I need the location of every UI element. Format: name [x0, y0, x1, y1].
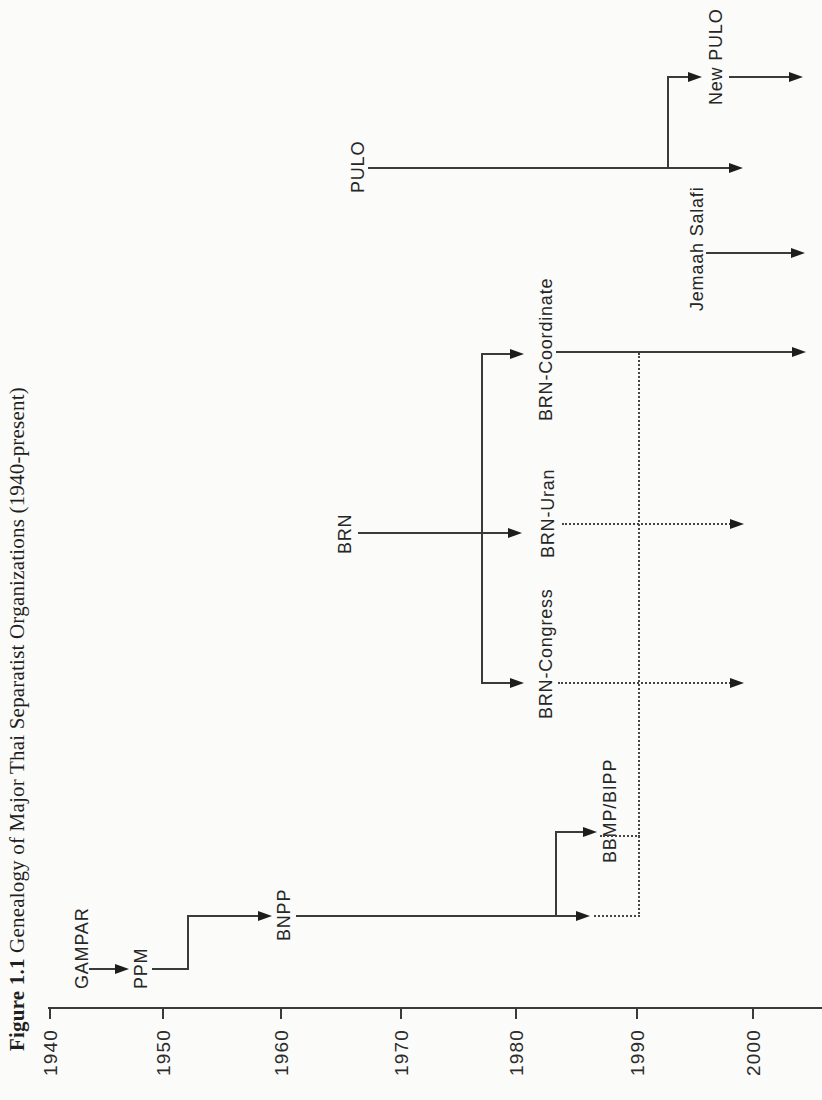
gampar-to-ppm-line: [89, 968, 116, 970]
label-brn: BRN: [336, 514, 354, 554]
pulo-lane-line: [368, 167, 730, 169]
figure-title: Figure 1.1 Genealogy of Major Thai Separ…: [7, 387, 28, 1051]
brn-to-coordinate-line: [481, 353, 511, 355]
brn-coordinate-arrowhead-icon: [792, 347, 806, 357]
figure-number: Figure 1.1: [5, 958, 29, 1051]
brn-uran-dotted-line: [562, 523, 731, 525]
brn-to-coordinate-arrowhead-icon: [510, 349, 524, 359]
brn-to-congress-line: [481, 682, 511, 684]
brn-to-uran-arrowhead-icon: [508, 528, 522, 538]
label-bbmp-bipp: BBMP/BIPP: [601, 759, 619, 863]
label-brn-uran: BRN-Uran: [539, 469, 557, 558]
tick-1970: [400, 1008, 402, 1019]
bnpp-lane-line: [296, 915, 578, 917]
ppm-line: [152, 968, 189, 970]
year-label-1970: 1970: [392, 1029, 411, 1076]
time-axis-line: [48, 1007, 822, 1009]
label-bnpp: BNPP: [275, 889, 293, 941]
jemaah-salafi-arrowhead-icon: [791, 248, 805, 258]
jemaah-salafi-lane-line: [706, 252, 792, 254]
label-brn-coordinate: BRN-Coordinate: [537, 278, 555, 421]
label-new-pulo: New PULO: [707, 9, 725, 105]
ppm-to-bnpp-arrowhead-icon: [258, 911, 272, 921]
scanned-figure-page: Figure 1.1 Genealogy of Major Thai Separ…: [0, 0, 822, 1100]
label-gampar: GAMPAR: [73, 908, 91, 989]
figure-caption: Genealogy of Major Thai Separatist Organ…: [5, 387, 29, 953]
ppm-to-bnpp-riser: [187, 915, 189, 970]
year-label-1960: 1960: [272, 1029, 291, 1076]
tick-1950: [162, 1008, 164, 1019]
year-label-1990: 1990: [628, 1029, 647, 1076]
pulo-end-arrowhead-icon: [729, 163, 743, 173]
gampar-to-ppm-arrowhead-icon: [115, 964, 129, 974]
label-brn-congress: BRN-Congress: [537, 588, 555, 719]
bnpp-to-bbmp-arrowhead-icon: [583, 827, 597, 837]
brn-congress-arrowhead-icon: [730, 678, 744, 688]
bnpp-to-bbmp-riser: [555, 831, 557, 917]
tick-1990: [636, 1008, 638, 1019]
bnpp-end-arrowhead-icon: [576, 911, 590, 921]
tick-1980: [515, 1008, 517, 1019]
label-ppm: PPM: [132, 948, 150, 989]
pulo-to-newpulo-arrowhead-icon: [688, 72, 702, 82]
tick-1960: [280, 1008, 282, 1019]
label-jemaah-salafi: Jemaah Salafi: [688, 187, 706, 311]
brn-uran-arrowhead-icon: [730, 519, 744, 529]
tick-2000: [752, 1008, 754, 1019]
ppm-to-bnpp-line: [187, 915, 258, 917]
brn-line: [358, 532, 509, 534]
newpulo-lane-line: [729, 76, 790, 78]
pulo-to-newpulo-line: [667, 76, 689, 78]
brn-fork-line: [481, 354, 483, 684]
brn-coordinate-lane-line: [556, 351, 794, 353]
year-label-1980: 1980: [507, 1029, 526, 1076]
bnpp-to-bbmp-line: [555, 831, 583, 833]
year-label-2000: 2000: [744, 1029, 763, 1076]
year-label-1940: 1940: [41, 1029, 60, 1076]
bnpp-remnant-dotted-line: [594, 915, 640, 917]
year-label-1950: 1950: [154, 1029, 173, 1076]
label-pulo: PULO: [349, 141, 367, 193]
newpulo-end-arrowhead-icon: [789, 72, 803, 82]
pulo-to-newpulo-riser: [667, 76, 669, 169]
brn-congress-dotted-line: [558, 682, 731, 684]
bbmp-remnant-dotted-line: [600, 835, 640, 837]
merge-1990-dotted-line: [638, 353, 640, 917]
brn-to-congress-arrowhead-icon: [510, 678, 524, 688]
tick-1940: [49, 1008, 51, 1019]
